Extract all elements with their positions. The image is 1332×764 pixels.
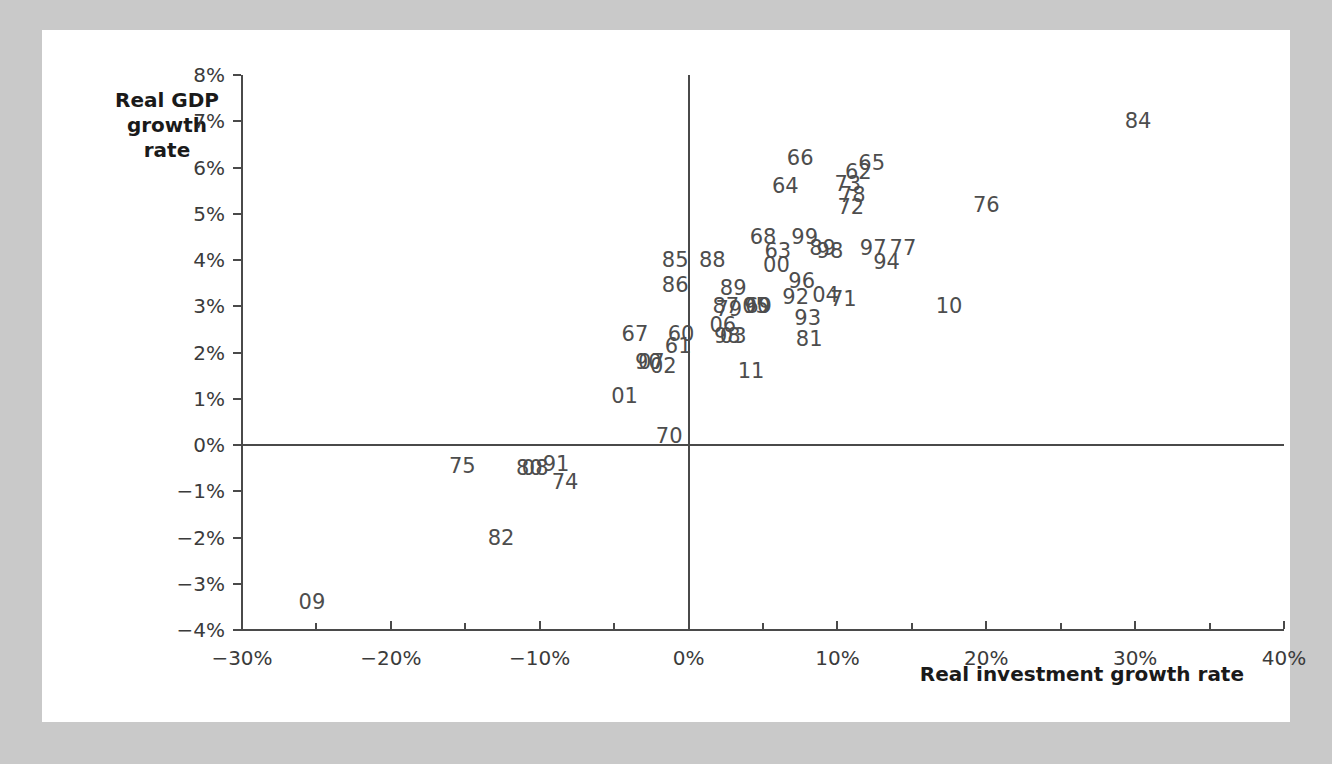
y-tick-label: 1%	[147, 387, 225, 411]
data-point-label: 86	[662, 273, 689, 297]
y-tick-label: 3%	[147, 294, 225, 318]
y-tick-mark	[233, 259, 241, 261]
x-minor-tick-mark	[762, 623, 764, 629]
data-point-label: 98	[817, 239, 844, 263]
x-tick-mark	[390, 621, 392, 629]
y-tick-label: −4%	[147, 618, 225, 642]
x-tick-mark	[688, 621, 690, 629]
x-axis-zero-line	[242, 444, 1284, 446]
x-axis-spine	[241, 629, 1284, 631]
data-point-label: 03	[720, 324, 747, 348]
data-point-label: 71	[830, 287, 857, 311]
figure-page: Real GDP growth rate Real investment gro…	[0, 0, 1332, 764]
data-point-label: 11	[738, 359, 765, 383]
y-tick-label: 8%	[147, 63, 225, 87]
y-tick-label: −1%	[147, 479, 225, 503]
data-point-label: 02	[650, 354, 677, 378]
y-tick-label: 5%	[147, 202, 225, 226]
data-point-label: 82	[488, 526, 515, 550]
x-tick-label: 20%	[964, 646, 1008, 670]
x-minor-tick-mark	[315, 623, 317, 629]
x-tick-label: −20%	[360, 646, 421, 670]
y-tick-mark	[233, 120, 241, 122]
x-tick-label: 30%	[1113, 646, 1157, 670]
data-point-label: 81	[796, 327, 823, 351]
y-tick-label: 4%	[147, 248, 225, 272]
data-point-label: 76	[973, 193, 1000, 217]
x-minor-tick-mark	[613, 623, 615, 629]
data-point-label: 74	[552, 470, 579, 494]
data-point-label: 88	[699, 248, 726, 272]
x-tick-mark	[241, 621, 243, 629]
data-point-label: 69	[745, 294, 772, 318]
x-tick-label: 0%	[673, 646, 705, 670]
x-minor-tick-mark	[464, 623, 466, 629]
y-tick-label: 2%	[147, 341, 225, 365]
y-tick-mark	[233, 398, 241, 400]
y-axis-spine	[241, 75, 243, 630]
y-tick-mark	[233, 537, 241, 539]
y-tick-label: 6%	[147, 156, 225, 180]
x-tick-mark	[985, 621, 987, 629]
x-tick-label: −30%	[211, 646, 272, 670]
y-tick-mark	[233, 305, 241, 307]
data-point-label: 64	[772, 174, 799, 198]
data-point-label: 85	[662, 248, 689, 272]
y-tick-label: 0%	[147, 433, 225, 457]
data-point-label: 94	[873, 250, 900, 274]
data-point-label: 75	[449, 454, 476, 478]
y-tick-mark	[233, 490, 241, 492]
y-tick-mark	[233, 213, 241, 215]
x-tick-mark	[539, 621, 541, 629]
y-tick-mark	[233, 444, 241, 446]
data-point-label: 70	[656, 424, 683, 448]
y-tick-mark	[233, 629, 241, 631]
data-point-label: 67	[622, 322, 649, 346]
x-minor-tick-mark	[1060, 623, 1062, 629]
y-tick-label: −2%	[147, 526, 225, 550]
chart-card: Real GDP growth rate Real investment gro…	[42, 30, 1290, 722]
scatter-plot-area: 8%7%6%5%4%3%2%1%0%−1%−2%−3%−4%−30%−20%−1…	[42, 30, 1290, 722]
y-tick-label: −3%	[147, 572, 225, 596]
data-point-label: 10	[936, 294, 963, 318]
x-tick-label: 40%	[1262, 646, 1306, 670]
data-point-label: 84	[1125, 109, 1152, 133]
x-tick-label: 10%	[815, 646, 859, 670]
data-point-label: 01	[611, 384, 638, 408]
data-point-label: 66	[787, 146, 814, 170]
x-minor-tick-mark	[1209, 623, 1211, 629]
y-tick-mark	[233, 583, 241, 585]
x-tick-mark	[1283, 621, 1285, 629]
x-tick-mark	[836, 621, 838, 629]
data-point-label: 00	[763, 253, 790, 277]
y-tick-mark	[233, 167, 241, 169]
data-point-label: 72	[837, 195, 864, 219]
x-tick-mark	[1134, 621, 1136, 629]
x-minor-tick-mark	[911, 623, 913, 629]
y-tick-mark	[233, 74, 241, 76]
y-tick-mark	[233, 352, 241, 354]
x-tick-label: −10%	[509, 646, 570, 670]
y-tick-label: 7%	[147, 109, 225, 133]
data-point-label: 09	[299, 590, 326, 614]
